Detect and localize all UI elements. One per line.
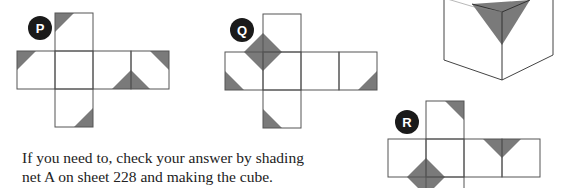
label-r: R <box>402 115 412 130</box>
instruction-text: If you need to, check your answer by sha… <box>22 148 402 186</box>
shade-triangle <box>263 109 282 128</box>
shade-triangle <box>55 13 74 32</box>
shade-triangle <box>445 101 464 120</box>
shade-triangle <box>225 71 244 90</box>
instruction-line-2: net A on sheet 228 and making the cube. <box>22 167 402 186</box>
label-p: P <box>36 21 45 36</box>
shade-triangle <box>74 108 93 127</box>
shade-triangle <box>17 51 36 70</box>
net-r: R <box>388 101 540 188</box>
label-q: Q <box>237 23 247 38</box>
cube-figure <box>444 0 553 80</box>
instruction-line-1: If you need to, check your answer by sha… <box>22 148 402 167</box>
shade-triangle <box>358 71 377 90</box>
net-q: Q <box>225 14 377 128</box>
shade-triangle <box>150 51 169 70</box>
net-p: P <box>17 13 169 127</box>
